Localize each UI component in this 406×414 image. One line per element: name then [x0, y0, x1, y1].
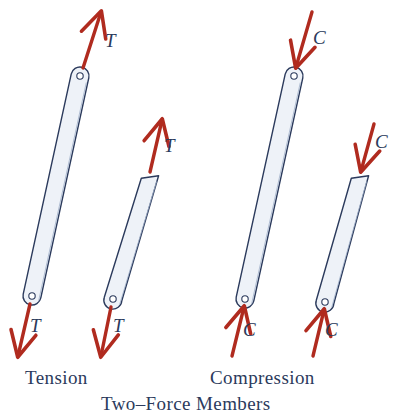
force-label-tension-2-top: T	[164, 136, 175, 155]
two-force-members-figure: T T T T C C C C Tension Compression Two–…	[0, 0, 406, 414]
force-arrow-compression-2-top	[361, 124, 374, 171]
force-arrow-tension-1-top	[83, 12, 101, 68]
group-label-tension: Tension	[25, 368, 88, 387]
member-body	[104, 176, 159, 309]
pin-hole-bottom	[322, 299, 328, 305]
force-label-compression-2-bottom: C	[325, 320, 338, 339]
force-arrow-compression-1-top	[296, 12, 312, 67]
force-label-compression-1-top: C	[313, 28, 326, 47]
figure-drawing-canvas	[0, 0, 406, 414]
force-label-tension-2-bottom: T	[113, 316, 124, 335]
force-arrow-compression-2-bottom	[313, 310, 324, 356]
force-label-tension-1-bottom: T	[30, 316, 41, 335]
force-arrow-tension-2-bottom	[101, 307, 111, 356]
figure-caption: Two–Force Members	[101, 394, 271, 413]
pin-hole-bottom	[29, 293, 35, 299]
force-label-compression-2-top: C	[375, 132, 388, 151]
force-label-compression-1-bottom: C	[243, 320, 256, 339]
group-label-compression: Compression	[210, 368, 315, 387]
force-label-tension-1-top: T	[105, 31, 116, 50]
compression-member-rounded	[236, 67, 303, 308]
compression-member-flat	[316, 176, 369, 312]
tension-member-rounded	[23, 67, 89, 305]
pin-hole-bottom	[110, 296, 116, 302]
member-body	[23, 67, 89, 305]
force-arrow-tension-1-bottom	[18, 304, 30, 356]
tension-member-flat	[104, 176, 159, 309]
member-body	[316, 176, 369, 312]
pin-hole-top	[77, 73, 83, 79]
force-arrow-tension-2-top	[150, 120, 162, 172]
pin-hole-top	[291, 73, 297, 79]
member-body	[236, 67, 303, 308]
pin-hole-bottom	[242, 296, 248, 302]
